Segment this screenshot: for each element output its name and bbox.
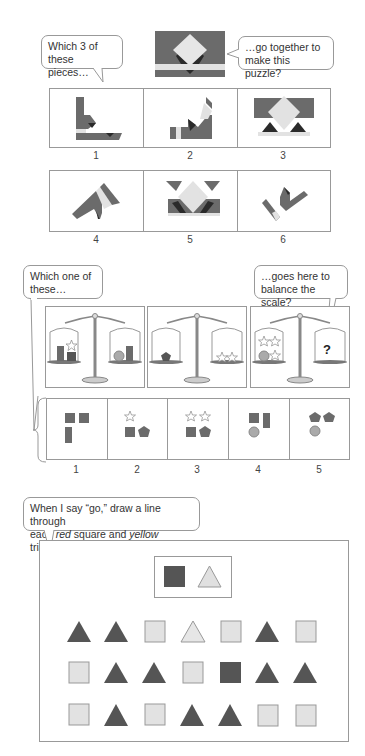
shape-row-2 bbox=[69, 662, 317, 683]
shape-row-1 bbox=[67, 621, 316, 642]
shape-row-3 bbox=[69, 704, 316, 726]
shape-grid bbox=[0, 0, 365, 756]
